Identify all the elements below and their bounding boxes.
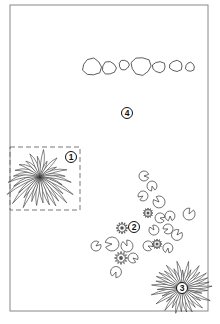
lily-pad xyxy=(163,224,173,234)
lily-pad xyxy=(183,208,195,220)
stepping-stones xyxy=(83,58,195,76)
lily-flower-center xyxy=(119,256,123,260)
lily-flower-center xyxy=(147,212,150,215)
lily-pad xyxy=(153,196,165,208)
lily-pad xyxy=(155,213,165,223)
lily-flower-center xyxy=(120,226,124,230)
lily-pad xyxy=(163,243,173,253)
grass-1 xyxy=(7,150,73,208)
stone xyxy=(170,60,183,71)
lily-pad xyxy=(91,241,101,251)
stone xyxy=(131,58,151,76)
stone xyxy=(185,62,194,71)
stone xyxy=(102,62,116,74)
label-1: 1 xyxy=(66,152,77,163)
garden-plan-diagram: 1234 xyxy=(0,0,220,324)
lily-pad xyxy=(121,240,133,252)
label-number: 2 xyxy=(132,222,137,232)
lily-pad xyxy=(139,171,149,181)
lily-pad xyxy=(110,267,121,278)
label-number: 4 xyxy=(125,108,130,118)
stone xyxy=(119,60,129,70)
plant-labels: 1234 xyxy=(66,108,188,294)
lily-pad xyxy=(128,253,138,263)
label-3: 3 xyxy=(177,283,188,294)
lily-pad xyxy=(138,191,148,201)
stone xyxy=(83,58,102,75)
lily-pad xyxy=(147,181,157,191)
lily-flowers xyxy=(115,208,163,265)
label-number: 3 xyxy=(180,283,185,293)
lily-pad xyxy=(165,211,175,221)
stone xyxy=(152,62,165,73)
lily-flower-center xyxy=(156,243,159,246)
label-4: 4 xyxy=(122,108,133,119)
lily-pads xyxy=(91,171,195,278)
lily-pad xyxy=(149,225,159,235)
lily-pad xyxy=(171,229,182,240)
lily-pad xyxy=(105,237,119,251)
label-2: 2 xyxy=(129,222,140,233)
lily-pad xyxy=(143,241,153,251)
label-number: 1 xyxy=(69,152,74,162)
